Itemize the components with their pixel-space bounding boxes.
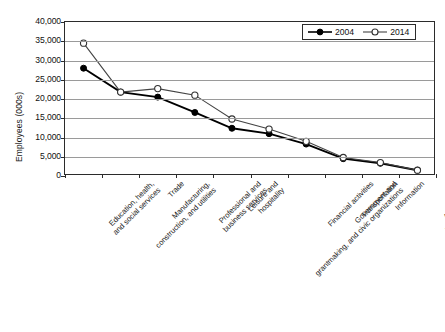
data-point-filled-circle [81,65,87,71]
plot-area [64,21,435,175]
data-point-open-circle [303,138,309,144]
legend-label-2014: 2014 [389,27,409,37]
y-axis-tick-mark [61,22,65,23]
gridline [65,61,434,62]
gridline [65,41,434,42]
legend-marker-filled-circle-icon [308,27,332,37]
y-axis-tick-mark [61,99,65,100]
data-point-filled-circle [229,125,235,131]
y-axis-tick-label: 35,000 [23,35,61,45]
y-axis-tick-mark [61,157,65,158]
y-axis-tick-mark [61,118,65,119]
legend-entry-2014: 2014 [363,27,409,37]
x-axis-category-label-line: Agriculture and [437,180,445,227]
data-point-open-circle [266,126,272,132]
series-line-2014 [84,43,418,170]
y-axis-tick-label: 40,000 [23,16,61,26]
data-point-open-circle [192,92,198,98]
legend-marker-open-circle-icon [363,27,387,37]
data-point-filled-circle [192,109,198,115]
gridline [65,138,434,139]
x-axis-category-label-line: Trade [166,180,186,200]
gridline [65,118,434,119]
chart-legend: 2004 2014 [302,24,416,40]
data-point-open-circle [414,167,420,173]
x-axis-category-label: Agriculture andnatural resources [437,180,445,233]
data-point-open-circle [118,89,124,95]
y-axis-tick-label: 10,000 [23,132,61,142]
figure-container: Employees (000s) 05,00010,00015,00020,00… [0,0,445,332]
data-point-open-circle [155,86,161,92]
x-axis-category-label: Education, health,and social services [105,180,162,237]
gridline [65,157,434,158]
y-axis-tick-mark [61,80,65,81]
legend-label-2004: 2004 [334,27,354,37]
y-axis-tick-label: 30,000 [23,55,61,65]
y-axis-tick-mark [61,61,65,62]
y-axis-tick-mark [61,138,65,139]
y-axis-tick-mark [61,41,65,42]
y-axis-tick-label: 20,000 [23,93,61,103]
x-axis-category-labels: Education, health,and social servicesMan… [0,176,445,296]
y-axis-tick-label: 5,000 [23,151,61,161]
x-axis-category-label: Trade [166,180,186,200]
y-axis-tick-label: 25,000 [23,74,61,84]
gridline [65,99,434,100]
y-axis-tick-label: 15,000 [23,112,61,122]
figure-caption [16,322,436,332]
data-point-open-circle [377,159,383,165]
legend-entry-2004: 2004 [308,27,354,37]
x-axis-category-label-line: construction, and utilities [154,186,218,250]
gridline [65,80,434,81]
